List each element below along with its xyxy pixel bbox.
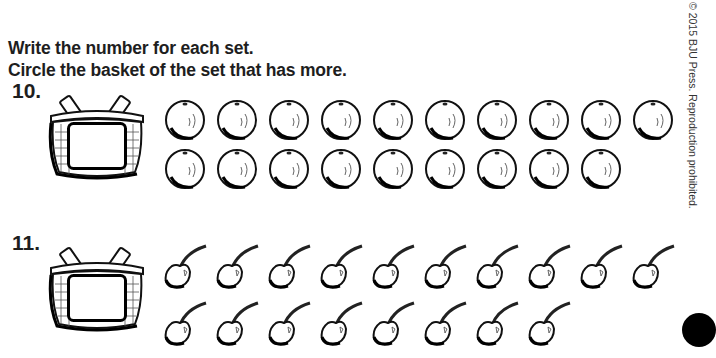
orange-icon (579, 147, 623, 191)
cherry-icon (214, 295, 260, 347)
cherry-icon (578, 238, 624, 290)
cherry-icon (474, 238, 520, 290)
orange-icon (423, 98, 467, 142)
answer-box-10[interactable] (67, 122, 127, 170)
cherry-row-2 (162, 295, 578, 347)
problem-number-11: 11. (12, 231, 40, 255)
instruction-line-1: Write the number for each set. (8, 37, 347, 59)
orange-icon (371, 147, 415, 191)
cherry-icon (162, 295, 208, 347)
orange-icon (267, 147, 311, 191)
orange-icon (631, 98, 675, 142)
cherry-icon (422, 238, 468, 290)
problem-number-10: 10. (12, 79, 41, 103)
orange-icon (267, 98, 311, 142)
orange-icon (527, 98, 571, 142)
cherry-row-1 (162, 238, 682, 290)
orange-icon (319, 98, 363, 142)
orange-icon (475, 147, 519, 191)
orange-icon (215, 147, 259, 191)
cherry-icon (370, 238, 416, 290)
orange-icon (371, 98, 415, 142)
cherry-icon (318, 238, 364, 290)
orange-row-1 (163, 98, 683, 142)
answer-box-11[interactable] (67, 274, 127, 322)
basket-11[interactable] (45, 244, 149, 332)
cherry-icon (162, 238, 208, 290)
instruction-line-2: Circle the basket of the set that has mo… (8, 59, 347, 81)
orange-icon (163, 147, 207, 191)
cherry-icon (630, 238, 676, 290)
cherry-icon (266, 238, 312, 290)
orange-icon (319, 147, 363, 191)
basket-10[interactable] (45, 92, 149, 180)
cherry-icon (370, 295, 416, 347)
orange-row-2 (163, 147, 631, 191)
cherry-icon (526, 295, 572, 347)
cherry-icon (266, 295, 312, 347)
instructions: Write the number for each set. Circle th… (8, 37, 347, 81)
orange-icon (423, 147, 467, 191)
orange-icon (527, 147, 571, 191)
orange-icon (475, 98, 519, 142)
orange-icon (579, 98, 623, 142)
orange-icon (163, 98, 207, 142)
page-marker-dot (682, 313, 716, 347)
cherry-icon (422, 295, 468, 347)
cherry-icon (526, 238, 572, 290)
cherry-icon (474, 295, 520, 347)
cherry-icon (318, 295, 364, 347)
cherry-icon (214, 238, 260, 290)
orange-icon (215, 98, 259, 142)
copyright-notice: © 2015 BJU Press. Reproduction prohibite… (687, 2, 699, 192)
